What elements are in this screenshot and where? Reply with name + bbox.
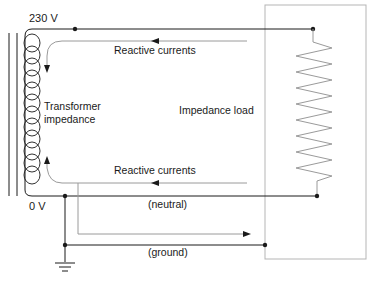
junction-dot [315, 194, 319, 198]
ground-icon [55, 263, 75, 271]
junction-dot [263, 243, 267, 247]
ground-label: (ground) [148, 246, 188, 258]
transformer-label-line2: impedance [44, 113, 95, 125]
arrow-down-icon [44, 65, 50, 73]
transformer-label-line1: Transformer [44, 100, 101, 112]
reactive-currents-top-label: Reactive currents [114, 44, 196, 56]
zero-voltage-label: 0 V [29, 200, 46, 213]
arrow-up-icon [44, 156, 50, 164]
load-label: Impedance load [179, 104, 254, 116]
arrow-right-icon [243, 231, 251, 237]
arrow-left-icon [151, 180, 159, 186]
transformer-coil-icon [24, 34, 40, 184]
neutral-label: (neutral) [148, 198, 187, 210]
source-voltage-label: 230 V [29, 12, 58, 25]
junction-dot [73, 27, 77, 31]
resistor-icon [296, 42, 332, 181]
reactive-currents-bottom-label: Reactive currents [114, 164, 196, 176]
